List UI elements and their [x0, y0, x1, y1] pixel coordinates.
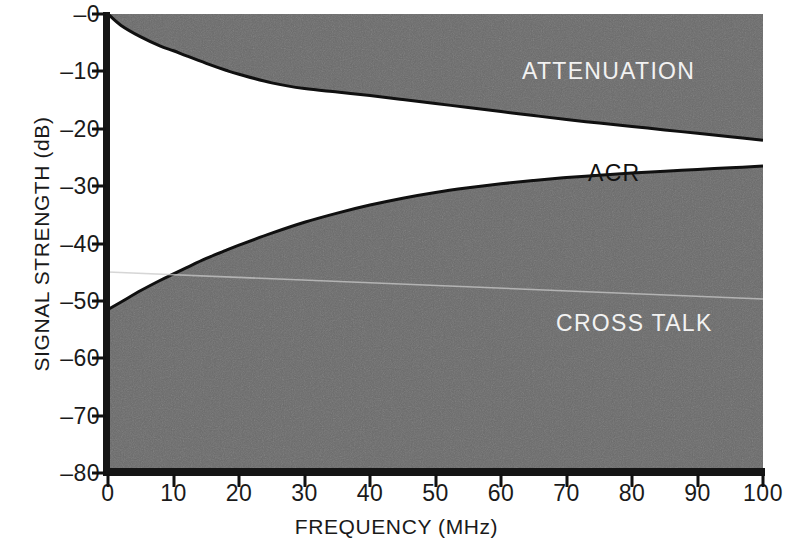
x-tick-mark — [238, 474, 241, 487]
y-axis-title: SIGNAL STRENGTH (dB) — [30, 44, 54, 444]
x-axis-title: FREQUENCY (MHz) — [0, 515, 793, 539]
x-tick-mark — [762, 474, 765, 487]
chart-figure: ATTENUATION ACR CROSS TALK –0–10–20–30–4… — [0, 0, 793, 555]
x-tick-mark — [565, 474, 568, 487]
x-tick-mark — [303, 474, 306, 487]
x-tick-mark — [369, 474, 372, 487]
x-tick-mark — [434, 474, 437, 487]
x-tick-mark — [696, 474, 699, 487]
x-tick-mark — [631, 474, 634, 487]
x-tick-mark — [500, 474, 503, 487]
x-tick-mark — [172, 474, 175, 487]
x-tick-mark — [107, 474, 110, 487]
x-axis-ticks: 0102030405060708090100 — [0, 0, 793, 555]
